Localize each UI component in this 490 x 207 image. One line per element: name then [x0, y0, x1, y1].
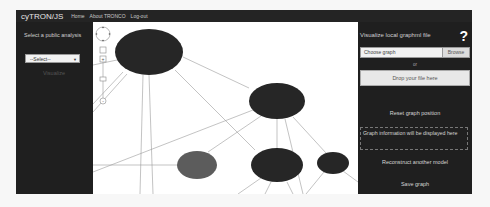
- help-icon[interactable]: ?: [459, 28, 468, 44]
- chevron-down-icon: ▼: [73, 55, 77, 64]
- navbar: cyTRON/JS Home About TRONCO Log-out: [16, 10, 472, 22]
- graph-node[interactable]: [177, 151, 217, 179]
- choose-graph-input[interactable]: Choose graph Browse: [360, 47, 470, 58]
- graph-node[interactable]: [249, 83, 305, 119]
- left-panel: Select a public analysis --Select-- ▼ Vi…: [16, 22, 92, 194]
- browse-button[interactable]: Browse: [442, 48, 469, 57]
- svg-text:+: +: [102, 56, 105, 62]
- graph-info-box: Graph information will be displayed here: [360, 127, 468, 150]
- reset-graph-button[interactable]: Reset graph position: [358, 110, 472, 116]
- pan-control-icon[interactable]: [96, 27, 110, 41]
- reset-view-icon[interactable]: [100, 47, 106, 53]
- nav-logout[interactable]: Log-out: [131, 13, 148, 19]
- analysis-select-label: Select a public analysis: [24, 32, 84, 39]
- right-panel: Visualize local graphml file ? Choose gr…: [358, 22, 472, 194]
- local-file-title: Visualize local graphml file: [360, 32, 431, 38]
- graph-canvas[interactable]: + -: [93, 22, 358, 194]
- file-drop-zone[interactable]: Drop your file here: [360, 70, 470, 86]
- nav-home[interactable]: Home: [71, 13, 84, 19]
- zoom-slider-handle[interactable]: [100, 77, 106, 81]
- save-graph-button[interactable]: Save graph: [358, 181, 472, 187]
- analysis-select-value: --Select--: [30, 56, 51, 62]
- graph-svg: + -: [93, 22, 358, 194]
- graph-node[interactable]: [317, 152, 349, 174]
- brand-logo[interactable]: cyTRON/JS: [21, 12, 63, 21]
- reconstruct-model-button[interactable]: Reconstruct another model: [358, 159, 472, 165]
- analysis-select[interactable]: --Select-- ▼: [25, 54, 80, 63]
- graph-node[interactable]: [251, 148, 303, 182]
- or-separator: or: [358, 62, 472, 67]
- nav-about-tronco[interactable]: About TRONCO: [90, 13, 126, 19]
- graph-node[interactable]: [115, 29, 183, 75]
- file-input-value: Choose graph: [361, 48, 442, 57]
- pan-zoom-controls: + -: [96, 27, 111, 104]
- graph-edges: [93, 57, 358, 194]
- visualize-button[interactable]: Visualize: [16, 70, 92, 76]
